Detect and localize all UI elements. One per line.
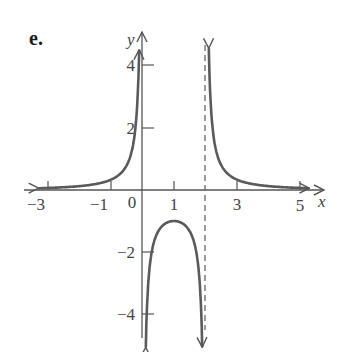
y-axis-label: y bbox=[125, 30, 135, 49]
x-tick-label-neg3: −3 bbox=[27, 195, 45, 214]
y-tick-label-neg4: −4 bbox=[117, 305, 136, 324]
part-label: e. bbox=[29, 27, 43, 49]
x-axis-label: x bbox=[317, 192, 326, 211]
curve-left-branch bbox=[39, 50, 140, 189]
y-tick-label-neg2: −2 bbox=[117, 243, 135, 262]
y-tick-label-4: 4 bbox=[127, 56, 136, 75]
x-tick-label-0: 0 bbox=[128, 193, 137, 212]
x-tick-label-neg1: −1 bbox=[90, 195, 108, 214]
curve-middle-branch bbox=[146, 221, 202, 347]
curve-right-branch bbox=[209, 48, 310, 188]
x-tick-label-5: 5 bbox=[296, 196, 305, 215]
x-tick-label-3: 3 bbox=[233, 195, 242, 214]
x-tick-label-1: 1 bbox=[170, 195, 179, 214]
graph-figure: e. −3 −1 0 1 3 5 4 2 −2 −4 x y bbox=[0, 0, 348, 352]
